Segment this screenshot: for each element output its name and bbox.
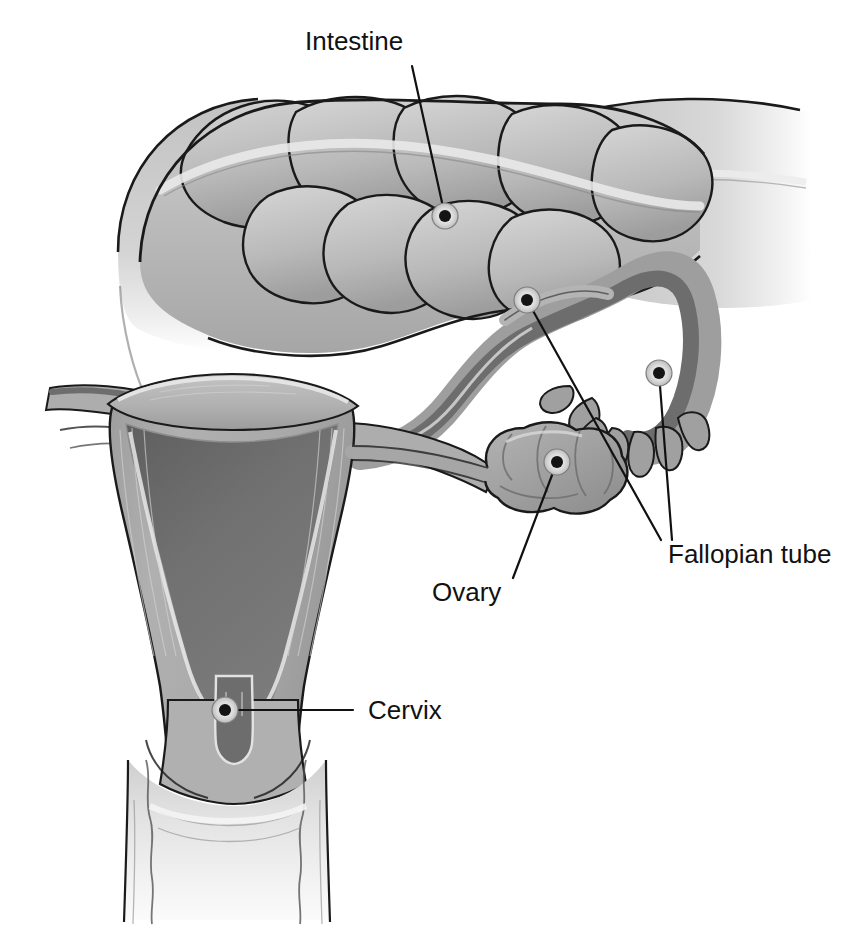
marker-intestine <box>432 203 458 229</box>
marker-fallopian-lower <box>646 360 672 386</box>
diagram-canvas: Intestine Fallopian tube Ovary Cervix <box>0 0 854 927</box>
marker-fallopian-upper <box>514 287 540 313</box>
label-intestine: Intestine <box>305 26 403 56</box>
label-ovary: Ovary <box>432 577 501 607</box>
uterus-fundus-serosa <box>108 374 358 430</box>
anatomy-illustration: Intestine Fallopian tube Ovary Cervix <box>0 0 854 927</box>
label-fallopian-tube: Fallopian tube <box>668 539 831 569</box>
uterus-structure <box>46 374 496 804</box>
marker-ovary <box>544 449 570 475</box>
marker-cervix <box>212 697 238 723</box>
label-cervix: Cervix <box>368 695 442 725</box>
